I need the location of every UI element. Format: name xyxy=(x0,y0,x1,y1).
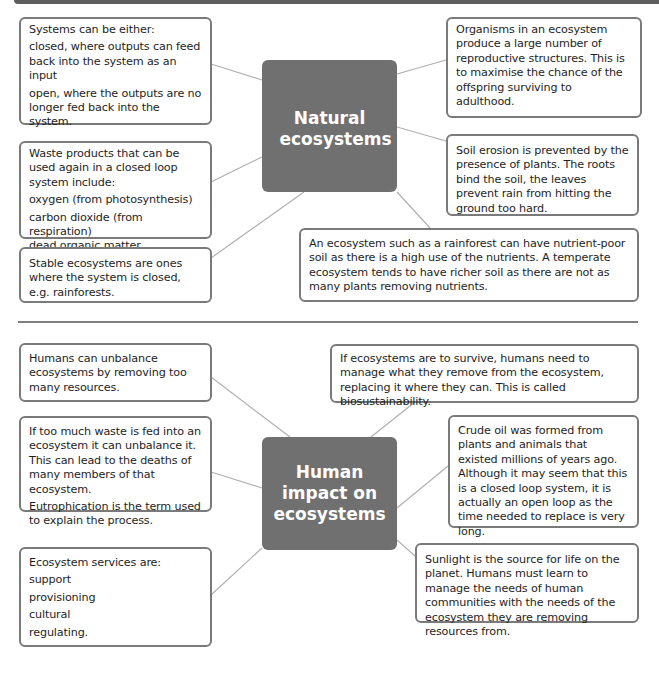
rainforest-soil-text: An ecosystem such as a rainforest can ha… xyxy=(309,237,629,295)
box-too-much-waste: If too much waste is fed into an ecosyst… xyxy=(19,416,212,512)
box-sunlight: Sunlight is the source for life on the p… xyxy=(415,543,639,623)
box-stable-ecosystems: Stable ecosystems are ones where the sys… xyxy=(19,247,212,303)
box-biosustainability: If ecosystems are to survive, humans nee… xyxy=(330,344,639,403)
waste-intro: Waste products that can be used again in… xyxy=(29,147,202,190)
services-item-cultural: cultural xyxy=(29,608,202,622)
box-crude-oil: Crude oil was formed from plants and ani… xyxy=(448,415,639,528)
connector-sunlight xyxy=(397,540,415,556)
services-item-regulating: regulating. xyxy=(29,626,202,640)
box-organisms: Organisms in an ecosystem produce a larg… xyxy=(446,17,642,118)
box-ecosystem-services: Ecosystem services are: support provisio… xyxy=(19,547,212,647)
sunlight-text: Sunlight is the source for life on the p… xyxy=(425,553,629,639)
box-rainforest-soil: An ecosystem such as a rainforest can ha… xyxy=(299,228,639,302)
stable-text: Stable ecosystems are ones where the sys… xyxy=(29,257,202,300)
connector-stable xyxy=(211,192,304,258)
connector-services xyxy=(211,548,262,595)
connector-rainforest xyxy=(397,192,430,228)
connector-soil xyxy=(397,127,446,141)
hub-natural-title: Natural ecosystems xyxy=(280,108,380,150)
eutrophication-note: Eutrophication is the term used to expla… xyxy=(29,500,202,529)
waste-item-carbon-dioxide: carbon dioxide (from respiration) xyxy=(29,211,202,240)
biosustainability-text: If ecosystems are to survive, humans nee… xyxy=(340,352,629,410)
services-item-support: support xyxy=(29,573,202,587)
hub-natural-ecosystems: Natural ecosystems xyxy=(262,60,397,192)
connector-too-much-waste xyxy=(211,472,262,488)
systems-item-closed: closed, where outputs can feed back into… xyxy=(29,40,202,83)
connector-waste xyxy=(211,157,262,182)
connector-unbalance xyxy=(211,377,290,437)
systems-item-open: open, where the outputs are no longer fe… xyxy=(29,87,202,130)
services-intro: Ecosystem services are: xyxy=(29,556,202,570)
soil-erosion-text: Soil erosion is prevented by the presenc… xyxy=(456,144,629,216)
organisms-text: Organisms in an ecosystem produce a larg… xyxy=(456,23,632,109)
too-much-waste-text: If too much waste is fed into an ecosyst… xyxy=(29,425,202,497)
crude-oil-text: Crude oil was formed from plants and ani… xyxy=(458,424,629,539)
box-soil-erosion: Soil erosion is prevented by the presenc… xyxy=(446,134,639,216)
box-systems: Systems can be either: closed, where out… xyxy=(19,17,212,125)
section-divider xyxy=(18,321,638,323)
waste-item-oxygen: oxygen (from photosynthesis) xyxy=(29,193,202,207)
connector-crude-oil xyxy=(397,466,448,508)
hub-human-impact: Human impact on ecosystems xyxy=(262,437,397,550)
hub-human-title: Human impact on ecosystems xyxy=(265,462,395,525)
systems-intro: Systems can be either: xyxy=(29,23,202,37)
box-humans-unbalance: Humans can unbalance ecosystems by remov… xyxy=(19,343,212,402)
box-waste-products: Waste products that can be used again in… xyxy=(19,141,212,239)
services-item-provisioning: provisioning xyxy=(29,591,202,605)
unbalance-text: Humans can unbalance ecosystems by remov… xyxy=(29,352,202,395)
connector-systems xyxy=(211,64,262,80)
connector-organisms xyxy=(397,60,446,74)
